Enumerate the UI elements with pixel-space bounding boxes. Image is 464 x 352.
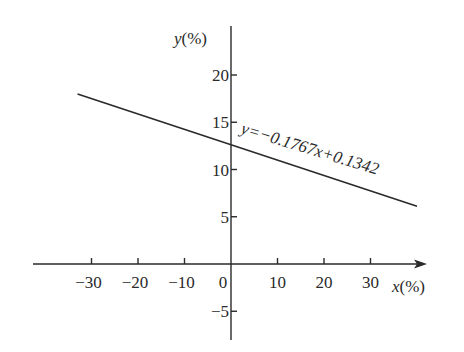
x-tick-label: 0 [219, 273, 228, 292]
x-tick-label: 30 [362, 273, 379, 292]
x-tick-label: −30 [75, 273, 102, 292]
x-axis-label: x(%) [391, 277, 425, 296]
y-tick-label: 5 [221, 208, 230, 227]
y-axis-label: y(%) [172, 29, 207, 48]
x-tick-label: 10 [269, 273, 286, 292]
y-tick-label: 20 [212, 66, 229, 85]
y-tick-label: −5 [211, 302, 229, 321]
equation-annotation: y=−0.1767x+0.1342 [237, 118, 382, 179]
y-axis-label-var: y [172, 29, 182, 48]
x-ticks: −30−20−100102030 [75, 258, 379, 292]
x-axis-label-unit: (%) [400, 277, 425, 296]
x-tick-label: −20 [122, 273, 149, 292]
chart: −30−20−100102030 −55101520 y(%) x(%) y=−… [0, 0, 464, 352]
x-tick-label: −10 [168, 273, 195, 292]
x-tick-label: 20 [316, 273, 333, 292]
y-axis-label-unit: (%) [182, 29, 207, 48]
regression-line [78, 94, 417, 206]
y-tick-label: 10 [212, 161, 229, 180]
y-tick-label: 15 [212, 113, 229, 132]
